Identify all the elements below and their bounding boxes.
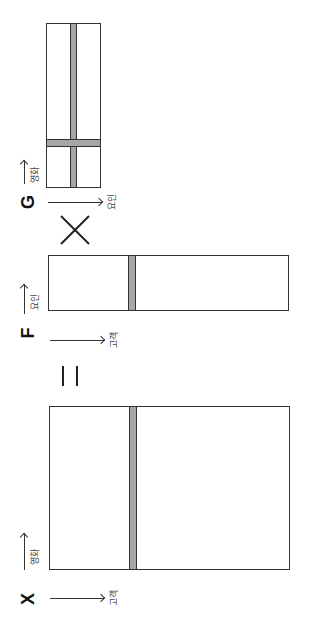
arrow-head-icon bbox=[20, 160, 28, 168]
matrix-x-col-axis-label: 영화 bbox=[30, 549, 40, 565]
matrix-g-letter: G bbox=[19, 193, 37, 211]
arrow-head-icon bbox=[20, 533, 28, 541]
matrix-x-highlight-row bbox=[129, 406, 137, 570]
matrix-f-row-axis-label: 고객 bbox=[109, 332, 119, 348]
matrix-x-box bbox=[49, 406, 290, 570]
arrow-head-icon bbox=[97, 336, 105, 344]
matrix-f-box bbox=[48, 255, 289, 311]
equals-bar bbox=[76, 366, 78, 386]
equals-bar bbox=[62, 366, 64, 386]
matrix-g-row-axis-label: 요인 bbox=[107, 194, 117, 210]
matrix-f-row-axis-arrow bbox=[50, 340, 104, 341]
matrix-x-row-axis-arrow bbox=[50, 598, 104, 599]
matrix-f-letter: F bbox=[19, 324, 37, 342]
matrix-g-highlight-col bbox=[70, 23, 77, 188]
matrix-f-col-axis-label: 요인 bbox=[30, 294, 40, 310]
matrix-g-highlight-row bbox=[46, 139, 101, 147]
matrix-g-row-axis-arrow bbox=[48, 202, 102, 203]
matrix-g-col-axis-label: 영화 bbox=[30, 167, 40, 183]
arrow-head-icon bbox=[20, 284, 28, 292]
matrix-f-highlight-row bbox=[128, 255, 136, 311]
matrix-x-row-axis-label: 고객 bbox=[109, 590, 119, 606]
matrix-x-letter: X bbox=[19, 590, 37, 608]
arrow-head-icon bbox=[95, 198, 103, 206]
times-icon bbox=[59, 214, 91, 246]
arrow-head-icon bbox=[97, 594, 105, 602]
